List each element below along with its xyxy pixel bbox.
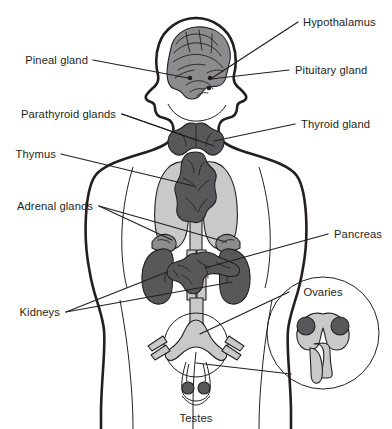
label-pituitary-gland: Pituitary gland — [295, 64, 367, 76]
label-thyroid-gland: Thyroid gland — [301, 118, 370, 130]
endocrine-system-diagram: Hypothalamus Pituitary gland Pineal glan… — [0, 0, 392, 429]
label-pineal-gland: Pineal gland — [25, 54, 88, 66]
label-testes: Testes — [180, 412, 213, 424]
label-parathyroid-glands: Parathyroid glands — [21, 108, 116, 120]
label-hypothalamus: Hypothalamus — [303, 16, 376, 28]
diagram-canvas: Hypothalamus Pituitary gland Pineal glan… — [0, 0, 392, 429]
label-pancreas: Pancreas — [334, 228, 382, 240]
label-thymus: Thymus — [16, 148, 57, 160]
label-kidneys: Kidneys — [19, 306, 60, 318]
label-ovaries: Ovaries — [303, 286, 343, 298]
pituitary-gland-marker — [207, 86, 212, 91]
label-adrenal-glands: Adrenal glands — [17, 200, 93, 212]
